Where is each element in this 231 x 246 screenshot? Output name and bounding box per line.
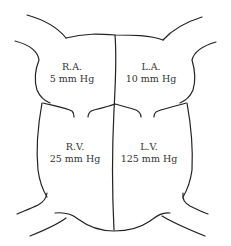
la-av-hook xyxy=(154,103,186,117)
lv-pressure: 125 mm Hg xyxy=(121,153,178,165)
ra-label: R.A. 5 mm Hg xyxy=(50,61,94,85)
rv-av-hook-left xyxy=(88,104,115,117)
lv-label: L.V. 125 mm Hg xyxy=(121,141,178,165)
rv-name: R.V. xyxy=(50,141,101,153)
rv-pressure: 25 mm Hg xyxy=(50,153,101,165)
bottom-left-vessel xyxy=(30,218,66,236)
lv-lower-vessel xyxy=(183,193,208,214)
ra-pressure: 5 mm Hg xyxy=(50,73,94,85)
bottom-right-vessel xyxy=(162,216,205,236)
rv-lower-vessel xyxy=(17,193,47,214)
ra-av-hook xyxy=(43,103,74,117)
rv-outer-wall xyxy=(37,103,47,197)
la-name: L.A. xyxy=(126,61,177,73)
apex-bottom xyxy=(55,213,170,231)
heart-outline-drawing xyxy=(0,0,231,246)
lv-av-hook-right xyxy=(115,104,141,117)
heart-diagram: R.A. 5 mm Hg L.A. 10 mm Hg R.V. 25 mm Hg… xyxy=(0,0,231,246)
top-left-vessel xyxy=(27,15,66,38)
ra-outer-wall xyxy=(15,41,50,103)
interventricular-septum xyxy=(113,35,116,230)
top-right-vessel xyxy=(163,17,202,40)
lv-outer-wall xyxy=(183,103,192,197)
la-label: L.A. 10 mm Hg xyxy=(126,61,177,85)
lv-name: L.V. xyxy=(121,141,178,153)
la-pressure: 10 mm Hg xyxy=(126,73,177,85)
la-outer-wall xyxy=(180,42,216,103)
rv-label: R.V. 25 mm Hg xyxy=(50,141,101,165)
ra-name: R.A. xyxy=(50,61,94,73)
